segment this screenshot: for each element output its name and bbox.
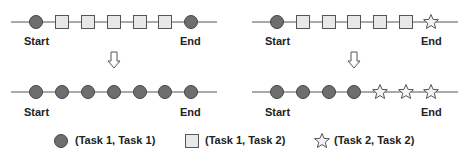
end-label: End <box>421 106 442 118</box>
start-label: Start <box>265 106 290 118</box>
square-node <box>108 16 121 29</box>
legend-label-circle: (Task 1, Task 1) <box>75 134 155 146</box>
star-node <box>399 85 414 99</box>
circle-node <box>348 86 361 99</box>
square-node <box>348 16 361 29</box>
star-node <box>424 85 439 99</box>
star-node <box>424 15 439 29</box>
legend-label-square: (Task 1, Task 2) <box>205 134 285 146</box>
left-top-sequence <box>11 16 217 29</box>
down-arrow-icon <box>108 52 120 68</box>
legend-square-icon <box>186 135 199 148</box>
end-label: End <box>421 35 442 47</box>
right-top-sequence <box>252 15 458 29</box>
square-node <box>374 16 387 29</box>
circle-node <box>159 86 172 99</box>
circle-node <box>30 86 43 99</box>
left-bottom-sequence <box>11 86 217 99</box>
circle-node <box>297 86 310 99</box>
circle-node <box>82 86 95 99</box>
circle-node <box>108 86 121 99</box>
square-node <box>82 16 95 29</box>
circle-node <box>30 16 43 29</box>
down-arrow-icon <box>348 52 360 68</box>
square-node <box>297 16 310 29</box>
circle-node <box>271 16 284 29</box>
circle-node <box>56 86 69 99</box>
start-label: Start <box>265 35 290 47</box>
circle-node <box>185 86 198 99</box>
start-label: Start <box>24 106 49 118</box>
square-node <box>134 16 147 29</box>
legend-circle-icon <box>55 135 68 148</box>
right-bottom-sequence <box>252 85 458 99</box>
end-label: End <box>180 35 201 47</box>
end-label: End <box>180 106 201 118</box>
circle-node <box>271 86 284 99</box>
start-label: Start <box>24 35 49 47</box>
legend-star-icon <box>315 134 330 148</box>
square-node <box>400 16 413 29</box>
circle-node <box>185 16 198 29</box>
circle-node <box>323 86 336 99</box>
legend-label-star: (Task 2, Task 2) <box>334 134 414 146</box>
square-node <box>159 16 172 29</box>
square-node <box>56 16 69 29</box>
circle-node <box>134 86 147 99</box>
square-node <box>323 16 336 29</box>
star-node <box>373 85 388 99</box>
